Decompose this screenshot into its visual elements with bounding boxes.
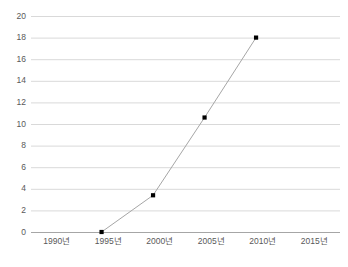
y-tick-label: 14 [0, 76, 26, 85]
data-point-marker[interactable] [151, 193, 155, 197]
data-line-group [102, 38, 257, 232]
x-tick-label: 2015년 [286, 236, 342, 246]
y-tick-label: 12 [0, 98, 26, 107]
plot-area [0, 0, 348, 267]
y-tick-label: 20 [0, 12, 26, 21]
x-tick-label: 2010년 [235, 236, 291, 246]
y-tick-label: 2 [0, 206, 26, 215]
x-tick-label: 2005년 [183, 236, 239, 246]
x-tick-label: 1995년 [80, 236, 136, 246]
data-line [102, 38, 257, 232]
line-chart: 02468101214161820 1990년1995년2000년2005년20… [0, 0, 348, 267]
data-point-marker[interactable] [202, 115, 206, 119]
y-tick-label: 6 [0, 163, 26, 172]
data-point-marker[interactable] [254, 36, 258, 40]
data-point-marker[interactable] [99, 230, 103, 234]
y-tick-label: 8 [0, 141, 26, 150]
x-tick-label: 2000년 [132, 236, 188, 246]
y-tick-label: 16 [0, 55, 26, 64]
y-tick-label: 4 [0, 184, 26, 193]
data-marker-group [99, 36, 258, 235]
y-tick-label: 0 [0, 228, 26, 237]
y-tick-label: 10 [0, 120, 26, 129]
x-tick-label: 1990년 [29, 236, 85, 246]
gridlines [31, 17, 340, 233]
y-tick-label: 18 [0, 33, 26, 42]
